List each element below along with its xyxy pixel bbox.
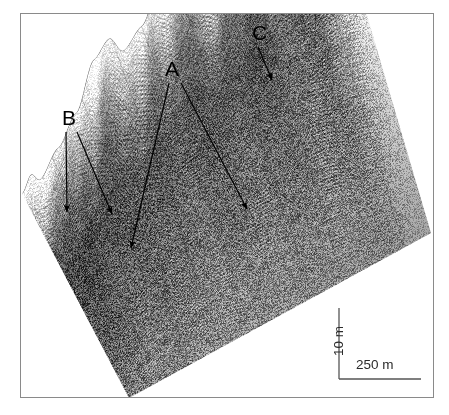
scale-bar-horizontal-label: 250 m	[356, 357, 394, 372]
annotation-label-c: C	[252, 22, 267, 43]
scale-bar-vertical-label: 10 m	[331, 326, 346, 356]
annotation-label-b: B	[62, 107, 76, 128]
figure-frame: A B C 10 m 250 m	[20, 13, 434, 398]
seismic-figure: A B C 10 m 250 m	[0, 0, 449, 415]
seismic-image	[21, 14, 433, 397]
annotation-label-a: A	[165, 58, 179, 79]
